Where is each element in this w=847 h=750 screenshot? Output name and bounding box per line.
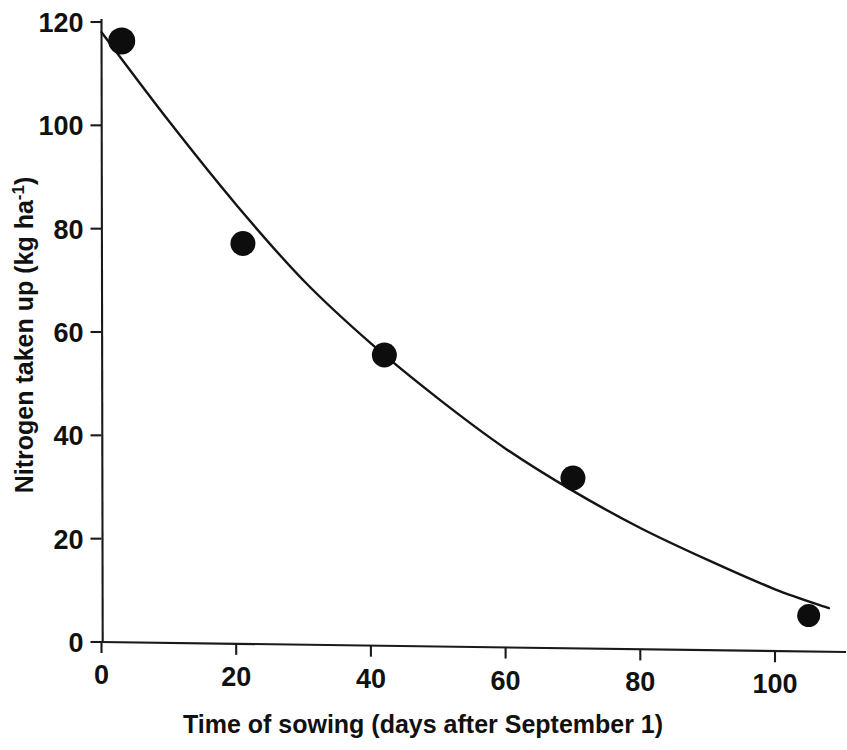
y-tick-label: 20 xyxy=(53,525,83,555)
x-tick-label: 40 xyxy=(356,664,386,694)
x-tick-label: 80 xyxy=(625,667,655,697)
x-tick-label: 100 xyxy=(752,669,797,699)
data-point-marker xyxy=(560,465,585,490)
figure-container: 020406080100120020406080100 Time of sowi… xyxy=(0,0,847,750)
scatter-plot: 020406080100120020406080100 Time of sowi… xyxy=(0,0,847,750)
fitted-curve xyxy=(102,32,829,608)
y-tick-label: 80 xyxy=(53,215,83,245)
data-point-marker xyxy=(797,604,820,627)
data-point-marker xyxy=(230,231,255,256)
x-axis-line xyxy=(102,642,846,652)
axis-titles-group: Time of sowing (days after September 1)N… xyxy=(9,177,663,738)
y-axis-title: Nitrogen taken up (kg ha-1) xyxy=(9,177,38,494)
y-axis-title-superscript: -1 xyxy=(9,185,28,200)
axes-group xyxy=(102,20,846,652)
data-points-group xyxy=(108,27,820,627)
y-tick-label: 0 xyxy=(68,628,83,658)
y-tick-label: 100 xyxy=(38,111,83,141)
tick-labels-group: 020406080100120020406080100 xyxy=(38,8,797,699)
y-tick-label: 40 xyxy=(53,421,83,451)
y-axis-line xyxy=(102,20,103,642)
x-tick-label: 0 xyxy=(94,660,109,690)
x-tick-label: 20 xyxy=(221,662,251,692)
x-tick-label: 60 xyxy=(491,666,521,696)
y-axis-title-main: Nitrogen taken up (kg ha xyxy=(10,199,38,493)
fitted-curve-group xyxy=(102,32,829,608)
y-tick-label: 120 xyxy=(38,8,83,38)
x-axis-title: Time of sowing (days after September 1) xyxy=(183,710,663,738)
data-point-marker xyxy=(108,27,135,54)
y-tick-label: 60 xyxy=(53,318,83,348)
data-point-marker xyxy=(372,343,397,368)
tick-marks-group xyxy=(91,22,776,662)
y-axis-title-tail: ) xyxy=(10,177,38,185)
